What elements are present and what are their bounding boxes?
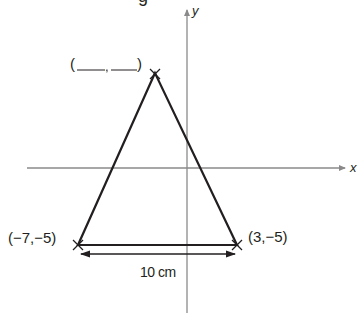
bottom-left-vertex-label: (−7,−5) bbox=[8, 230, 56, 245]
diagram-canvas: g bbox=[0, 0, 361, 320]
base-measurement-label: 10 cm bbox=[140, 265, 176, 279]
apex-open-paren: ( bbox=[70, 56, 75, 71]
x-axis-label: x bbox=[350, 161, 357, 174]
apex-close-paren: ) bbox=[137, 56, 142, 71]
y-axis-label: y bbox=[192, 4, 199, 17]
bottom-right-vertex-label: (3,−5) bbox=[248, 229, 288, 244]
triangle bbox=[78, 73, 237, 245]
apex-comma: , bbox=[105, 60, 109, 73]
diagram-svg bbox=[0, 0, 361, 320]
